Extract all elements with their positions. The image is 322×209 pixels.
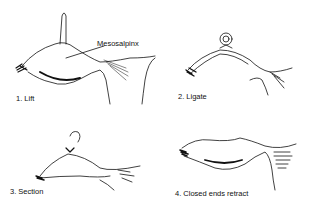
step-4-caption: 4. Closed ends retract: [175, 189, 248, 198]
step-3-caption: 3. Section: [10, 187, 43, 196]
mesosalpinx-label: Mesosalpinx: [97, 39, 139, 48]
panel-1-drawing: [16, 13, 155, 104]
panel-2-drawing: [186, 33, 292, 95]
step-2-caption: 2. Ligate: [178, 92, 207, 101]
step-1-caption: 1. Lift: [16, 94, 34, 103]
panel-4-drawing: [180, 138, 296, 190]
panel-3-drawing: [36, 132, 140, 191]
tubal-ligation-illustration: [0, 0, 322, 209]
